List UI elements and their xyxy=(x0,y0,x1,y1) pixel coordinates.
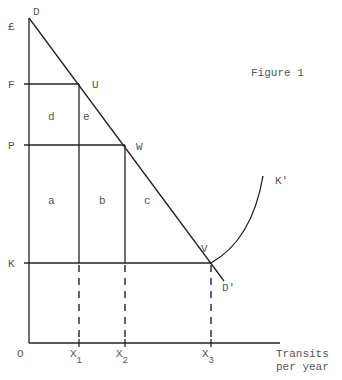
figure-title: Figure 1 xyxy=(251,67,304,79)
figure-diagram: £ D F P K U W V D' K' Figure 1 d e a b c… xyxy=(0,0,342,380)
cost-curve xyxy=(211,176,263,263)
currency-label: £ xyxy=(8,21,15,33)
label-x2: X2 xyxy=(116,348,128,366)
area-e: e xyxy=(83,111,90,123)
label-d-prime: D' xyxy=(222,282,235,294)
area-b: b xyxy=(99,195,106,207)
demand-line xyxy=(29,18,224,281)
area-d: d xyxy=(48,111,55,123)
label-w: W xyxy=(136,141,143,153)
x-axis-label-line1: Transits xyxy=(276,348,329,360)
label-k: K xyxy=(8,258,15,270)
area-a: a xyxy=(48,195,55,207)
label-p: P xyxy=(8,140,15,152)
label-x1: X1 xyxy=(70,348,82,366)
area-c: c xyxy=(144,195,151,207)
label-d: D xyxy=(33,6,40,18)
label-origin: O xyxy=(17,348,24,360)
label-f: F xyxy=(8,79,15,91)
x-axis-label-line2: per year xyxy=(276,361,329,373)
label-u: U xyxy=(92,79,99,91)
label-k-prime: K' xyxy=(275,175,288,187)
label-v: V xyxy=(201,243,208,255)
label-x3: X3 xyxy=(202,348,214,366)
